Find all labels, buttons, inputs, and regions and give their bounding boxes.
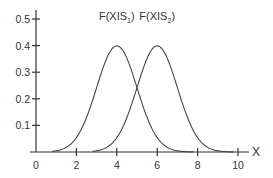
series-label-2: F(XIS2) [139,10,175,24]
y-tick-label: 0.4 [15,40,30,52]
x-axis: 0246810X [30,145,260,171]
x-tick-label: 10 [232,159,244,171]
x-tick-label: 0 [33,159,39,171]
series-curve-1 [52,46,193,152]
series-label-1: F(XIS1) [99,10,135,24]
x-tick-label: 4 [114,159,120,171]
y-axis: 0.10.20.30.40.5 [15,10,40,152]
chart: 0.10.20.30.40.5 0246810X F(XIS1)F(XIS2) [0,0,273,178]
y-tick-label: 0.5 [15,13,30,25]
x-tick-label: 8 [195,159,201,171]
y-tick-label: 0.2 [15,93,30,105]
y-tick-label: 0.1 [15,119,30,131]
series-curves [52,46,234,152]
x-tick-label: 2 [73,159,79,171]
x-axis-title: X [252,145,260,159]
series-labels: F(XIS1)F(XIS2) [99,10,175,24]
x-tick-label: 6 [154,159,160,171]
series-curve-2 [93,46,234,152]
y-tick-label: 0.3 [15,66,30,78]
